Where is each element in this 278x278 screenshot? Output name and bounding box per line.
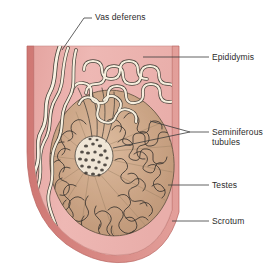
label-seminiferous-tubules: Seminiferous tubules [212,127,263,147]
label-testes: Testes [212,180,237,190]
label-epididymis: Epididymis [212,52,254,62]
leader-vas-deferens [62,18,92,50]
label-vas-deferens: Vas deferens [95,12,146,22]
rete-testis [75,136,113,177]
label-scrotum: Scrotum [212,216,244,226]
anatomy-diagram-figure: Vas deferens Epididymis Seminiferous tub… [0,0,278,278]
